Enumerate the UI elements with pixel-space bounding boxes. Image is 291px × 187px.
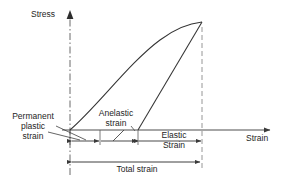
stress-strain-diagram: Stress Strain Permanent plastic strain A…	[0, 0, 291, 187]
unloading-line-path	[138, 22, 202, 130]
permanent-plastic-strain-label: Permanent plastic strain	[6, 111, 60, 141]
total-strain-label: Total strain	[108, 164, 166, 174]
anelastic-tick-path	[113, 130, 124, 141]
unloading-line	[138, 22, 202, 130]
x-axis-label: Strain	[246, 133, 268, 143]
anelastic-strain-label: Anelastic strain	[93, 108, 139, 128]
elastic-strain-label: Elastic Strain	[152, 130, 196, 150]
y-axis-label: Stress	[31, 9, 55, 19]
y-axis	[67, 10, 74, 175]
anelastic-tick-line	[113, 130, 124, 141]
y-axis-arrowhead	[67, 10, 74, 19]
diagram-canvas	[0, 0, 291, 187]
